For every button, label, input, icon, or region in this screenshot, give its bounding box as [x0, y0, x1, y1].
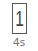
- duration-label: 4s: [0, 36, 38, 49]
- number-tile[interactable]: 1: [12, 3, 27, 34]
- tile-digit: 1: [15, 8, 24, 30]
